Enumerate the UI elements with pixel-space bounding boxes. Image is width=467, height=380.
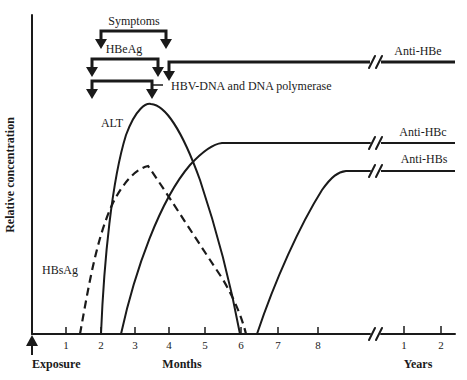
anti-hbe-label: Anti-HBe: [394, 44, 441, 58]
anti-hbe-line: [163, 56, 455, 81]
alt-curve: [101, 104, 240, 334]
tick-month-6: 6: [238, 339, 244, 351]
tick-year-1: 1: [401, 339, 407, 351]
tick-month-8: 8: [315, 339, 321, 351]
hbv-serology-chart: 1 2 3 4 5 6 7 8 1 2 Relative concentrati…: [0, 0, 467, 380]
x-axis-label: Months: [162, 357, 202, 371]
years-label: Years: [404, 357, 433, 371]
hbv-dna-bracket: [86, 81, 163, 99]
x-axis-break: [369, 328, 382, 340]
tick-month-2: 2: [98, 339, 104, 351]
tick-month-5: 5: [202, 339, 208, 351]
hbv-dna-label: HBV-DNA and DNA polymerase: [171, 79, 332, 93]
anti-hbs-curve: [257, 165, 455, 334]
anti-hbs-label: Anti-HBs: [401, 152, 448, 166]
tick-month-4: 4: [166, 339, 172, 351]
anti-hbc-curve: [121, 137, 455, 334]
hbsag-label: HBsAg: [42, 263, 78, 277]
exposure-arrow-icon: [26, 335, 38, 355]
y-axis-label: Relative concentration: [3, 117, 17, 233]
tick-month-1: 1: [63, 339, 69, 351]
alt-label: ALT: [101, 116, 124, 130]
tick-month-7: 7: [275, 339, 281, 351]
tick-year-2: 2: [438, 339, 444, 351]
anti-hbc-label: Anti-HBc: [399, 125, 446, 139]
exposure-label: Exposure: [32, 357, 81, 371]
symptoms-label: Symptoms: [108, 14, 160, 28]
hbeag-label: HBeAg: [106, 42, 143, 56]
hbeag-bracket: [86, 59, 164, 77]
tick-month-3: 3: [132, 339, 138, 351]
